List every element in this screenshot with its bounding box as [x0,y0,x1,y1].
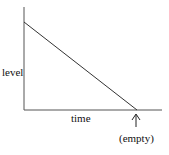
x-axis-label: time [71,112,91,124]
y-axis-label: level [2,66,23,78]
empty-annotation: (empty) [119,132,154,145]
level-line [24,22,137,110]
up-arrow-icon [132,114,140,127]
level-vs-time-diagram: level time (empty) [0,0,169,155]
